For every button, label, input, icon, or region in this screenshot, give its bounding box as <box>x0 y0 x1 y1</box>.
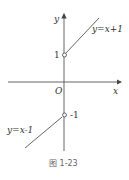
x-axis-label: x <box>113 86 118 96</box>
y-axis-label: y <box>53 14 60 24</box>
curve-label-upper: y=x+1 <box>91 24 123 34</box>
origin-label: O <box>55 86 63 96</box>
figure-caption: 图 1-23 <box>49 159 78 168</box>
curve-label-lower: y=x-1 <box>6 125 33 135</box>
piecewise-function-graph: y x O 1 -1 y=x+1 y=x-1 图 1-23 <box>0 0 129 180</box>
tick-label-1: 1 <box>54 50 60 60</box>
open-circle-0-1 <box>63 53 67 57</box>
tick-label-neg1: -1 <box>70 110 79 120</box>
open-circle-0-neg1 <box>63 113 67 117</box>
